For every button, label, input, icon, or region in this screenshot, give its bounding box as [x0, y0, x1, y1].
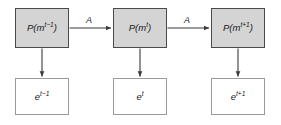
state-node-prev-label: P(mt−1)	[27, 23, 57, 33]
transition-label-prev-curr: A	[86, 16, 92, 25]
diagram-canvas: P(mt−1) P(mt) P(mt+1) A A et−1 et et+1	[0, 0, 281, 125]
state-node-prev: P(mt−1)	[15, 8, 69, 48]
emission-node-prev-label: et−1	[35, 92, 50, 102]
emission-node-curr: et	[113, 78, 167, 115]
transition-label-curr-next: A	[184, 16, 190, 25]
state-node-next-label: P(mt+1)	[223, 23, 253, 33]
state-node-next: P(mt+1)	[211, 8, 265, 48]
emission-node-prev: et−1	[15, 78, 69, 115]
state-node-curr-label: P(mt)	[129, 23, 151, 33]
state-node-curr: P(mt)	[113, 8, 167, 48]
emission-node-curr-label: et	[136, 92, 143, 102]
emission-node-next: et+1	[211, 78, 265, 115]
emission-node-next-label: et+1	[231, 92, 246, 102]
